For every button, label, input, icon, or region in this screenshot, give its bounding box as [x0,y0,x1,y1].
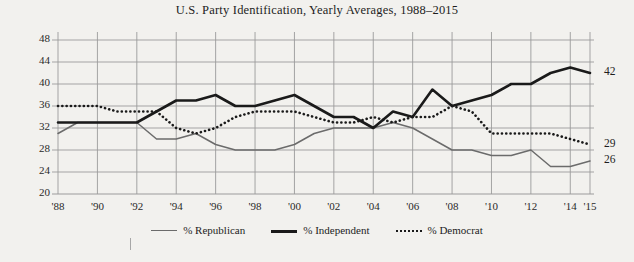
legend-line-democrat-icon [396,226,422,235]
end-label-republican: 26 [604,153,616,165]
y-axis-tick-32: 32 [26,120,50,132]
y-axis-tick-36: 36 [26,98,50,110]
legend-line-republican-icon [151,226,177,235]
legend-label-independent: % Independent [303,224,369,236]
end-label-democrat: 29 [604,137,616,149]
y-axis-tick-48: 48 [26,32,50,44]
y-axis-tick-40: 40 [26,76,50,88]
x-axis-tick-88: '88 [42,200,74,212]
x-axis-tick-90: '90 [81,200,113,212]
legend-item-independent[interactable]: % Independent [271,224,369,236]
chart-plot-area [0,0,634,262]
chart-legend: % Republican % Independent % Democrat [0,224,634,236]
x-axis-tick-04: '04 [357,200,389,212]
legend-line-independent-icon [271,226,297,235]
legend-item-democrat[interactable]: % Democrat [396,224,483,236]
series-line-republican [58,123,590,167]
x-axis-tick-06: '06 [397,200,429,212]
legend-label-democrat: % Democrat [428,224,483,236]
x-axis-tick-92: '92 [121,200,153,212]
chart-root: U.S. Party Identification, Yearly Averag… [0,0,634,262]
legend-label-republican: % Republican [183,224,245,236]
x-axis-tick-96: '96 [200,200,232,212]
x-axis-tick-12: '12 [515,200,547,212]
x-axis-tick-00: '00 [278,200,310,212]
x-axis-tick-98: '98 [239,200,271,212]
x-axis-tick-15: '15 [574,200,606,212]
x-axis-tick-10: '10 [475,200,507,212]
x-axis-tick-08: '08 [436,200,468,212]
y-axis-tick-28: 28 [26,142,50,154]
y-axis-tick-20: 20 [26,186,50,198]
stray-tick-mark [130,238,131,250]
x-axis-tick-02: '02 [318,200,350,212]
legend-item-republican[interactable]: % Republican [151,224,245,236]
end-label-independent: 42 [604,65,616,77]
y-axis-tick-44: 44 [26,54,50,66]
x-axis-tick-94: '94 [160,200,192,212]
y-axis-tick-24: 24 [26,164,50,176]
